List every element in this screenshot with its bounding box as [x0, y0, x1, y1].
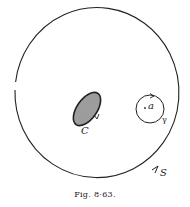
label-gamma: γ: [162, 115, 167, 124]
label-c: C: [81, 125, 89, 136]
figure-caption: Fig. 8·63.: [0, 190, 190, 199]
region-c: [68, 88, 106, 131]
label-s: S: [160, 167, 167, 178]
outer-contour-arrow-icon: [152, 166, 158, 173]
point-a-dot: [144, 107, 146, 109]
figure-diagram: a γ C S: [0, 0, 190, 207]
small-contour-arrow-icon: [150, 94, 154, 99]
label-a: a: [148, 100, 154, 111]
